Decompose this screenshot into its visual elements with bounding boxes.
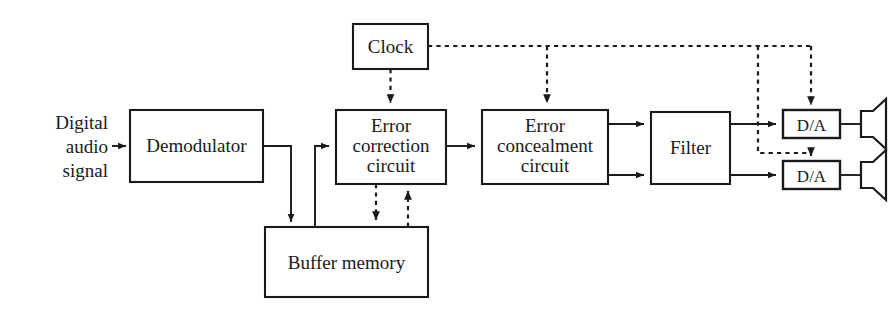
da-converter-bottom-label: D/A [797, 167, 827, 186]
error-concealment-label-line-1: Error [525, 115, 566, 136]
demodulator-label: Demodulator [146, 135, 247, 156]
wire-buffer-to-error-correction [315, 146, 329, 227]
input-label-line-3: signal [63, 160, 108, 181]
block-da-converter-top[interactable]: D/A [783, 110, 840, 138]
block-diagram-canvas: Digital audio signal Demodulator Clock E… [0, 0, 896, 317]
speaker-top-horn [861, 99, 886, 149]
buffer-memory-label: Buffer memory [288, 252, 406, 273]
block-error-correction-circuit[interactable]: Error correction circuit [336, 110, 446, 184]
input-signal-label: Digital audio signal [55, 112, 108, 181]
block-buffer-memory[interactable]: Buffer memory [265, 227, 428, 297]
error-correction-label-line-2: correction [352, 135, 430, 156]
block-diagram: Digital audio signal Demodulator Clock E… [0, 0, 896, 317]
speaker-top [861, 99, 886, 149]
clock-label: Clock [368, 36, 414, 57]
input-label-line-1: Digital [55, 112, 108, 133]
block-demodulator[interactable]: Demodulator [130, 110, 263, 182]
wire-clock-to-da-bottom [758, 46, 811, 156]
block-da-converter-bottom[interactable]: D/A [783, 161, 840, 189]
input-label-line-2: audio [66, 136, 108, 157]
error-correction-label-line-3: circuit [367, 155, 416, 176]
speaker-bottom [861, 150, 886, 200]
error-concealment-label-line-3: circuit [521, 155, 570, 176]
filter-label: Filter [670, 137, 712, 158]
da-converter-top-label: D/A [797, 116, 827, 135]
error-correction-label-line-1: Error [371, 115, 412, 136]
wire-demodulator-to-buffer [263, 146, 291, 222]
block-filter[interactable]: Filter [651, 112, 730, 184]
speaker-bottom-horn [861, 150, 886, 200]
block-clock[interactable]: Clock [353, 24, 428, 69]
block-error-concealment-circuit[interactable]: Error concealment circuit [482, 110, 608, 184]
error-concealment-label-line-2: concealment [497, 135, 594, 156]
